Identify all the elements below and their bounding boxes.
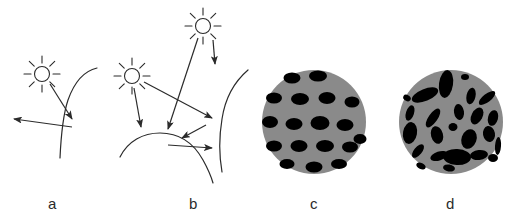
panel-b [114,8,248,183]
surface-curve-a [60,68,97,158]
pore [331,159,347,169]
panel-c [262,70,367,174]
sun-icon-b-left [114,58,150,94]
pore [284,73,301,84]
surface-curve-b-right [220,70,248,172]
figure-container: a b c d [0,0,529,224]
pore [309,71,327,82]
reflected-ray-b1 [182,125,206,138]
incident-ray-b1 [134,88,141,127]
incident-ray-b4 [213,40,215,64]
pore [488,154,498,162]
panel-caption-d: d [446,196,454,211]
figure-canvas [0,0,529,224]
panel-d [399,69,503,174]
panel-caption-b: b [189,196,197,211]
pore [354,134,367,144]
pore [461,74,469,80]
pore [319,92,336,104]
incident-ray-a [50,84,72,119]
pore [262,116,278,128]
pore [266,141,282,152]
pore [311,116,330,130]
surface-curve-b-lower [120,133,213,183]
pore [286,118,303,130]
pore [342,142,358,153]
panel-a [14,56,97,158]
sun-icon-b-top [185,8,221,44]
pore [280,159,295,169]
pore [316,140,334,152]
panel-caption-c: c [310,196,318,211]
pore [291,93,309,105]
pore [345,97,360,108]
sun-icon-a [24,56,60,92]
pore [449,123,458,131]
pore [266,93,282,104]
pore [306,162,323,173]
incident-ray-b3 [168,38,198,129]
pore [337,119,354,131]
reflected-ray-b2 [168,145,212,148]
panel-caption-a: a [48,196,56,211]
pore [291,140,308,152]
